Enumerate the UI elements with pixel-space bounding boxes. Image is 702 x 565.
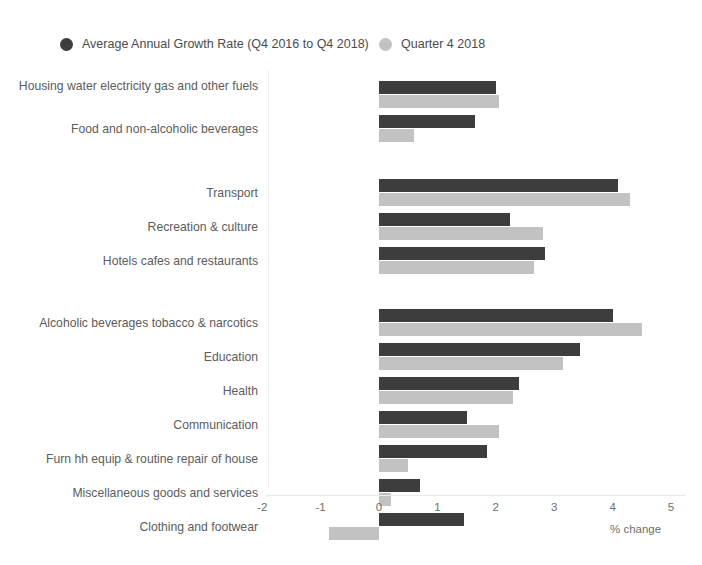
bar-dark[interactable]: [379, 411, 467, 424]
bar-pair: [0, 78, 702, 112]
bar-dark[interactable]: [379, 343, 580, 356]
bar-pair: [0, 176, 702, 210]
bar-chart: Average Annual Growth Rate (Q4 2016 to Q…: [0, 0, 702, 565]
legend-item-average-annual-growth-rate[interactable]: Average Annual Growth Rate (Q4 2016 to Q…: [60, 32, 369, 56]
legend-item-quarter-4-2018[interactable]: Quarter 4 2018: [379, 32, 485, 56]
bar-light[interactable]: [379, 323, 642, 336]
bar-pair: [0, 306, 702, 340]
bar-row: Hotels cafes and restaurants: [0, 244, 702, 278]
bar-dark[interactable]: [379, 309, 613, 322]
x-axis-tick: 0: [376, 501, 382, 513]
bar-light[interactable]: [379, 227, 543, 240]
bar-row: Housing water electricity gas and other …: [0, 78, 702, 112]
legend-label: Average Annual Growth Rate (Q4 2016 to Q…: [82, 38, 369, 51]
legend-label: Quarter 4 2018: [401, 38, 485, 51]
x-axis-line: [266, 495, 686, 496]
bar-light[interactable]: [379, 357, 563, 370]
bar-dark[interactable]: [379, 479, 420, 492]
bar-light[interactable]: [379, 129, 414, 142]
bar-row: Furn hh equip & routine repair of house: [0, 442, 702, 476]
x-axis-tick: 3: [551, 501, 557, 513]
bar-dark[interactable]: [379, 115, 475, 128]
x-axis: -2-1012345 % change: [0, 495, 702, 555]
bar-pair: [0, 112, 702, 146]
bar-row: Recreation & culture: [0, 210, 702, 244]
bar-pair: [0, 340, 702, 374]
bar-pair: [0, 374, 702, 408]
x-axis-title: % change: [610, 523, 661, 535]
bar-dark[interactable]: [379, 445, 487, 458]
bar-row: Health: [0, 374, 702, 408]
plot-area: Housing water electricity gas and other …: [0, 70, 702, 495]
legend-dot-light-icon: [379, 38, 392, 51]
bar-row: Alcoholic beverages tobacco & narcotics: [0, 306, 702, 340]
x-axis-tick: -2: [257, 501, 267, 513]
bar-row: Transport: [0, 176, 702, 210]
chart-legend: Average Annual Growth Rate (Q4 2016 to Q…: [0, 32, 702, 56]
bar-dark[interactable]: [379, 213, 510, 226]
x-axis-tick: 1: [434, 501, 440, 513]
bar-dark[interactable]: [379, 179, 618, 192]
bar-pair: [0, 210, 702, 244]
bar-light[interactable]: [379, 391, 513, 404]
bar-row: Food and non-alcoholic beverages: [0, 112, 702, 146]
bar-light[interactable]: [379, 193, 630, 206]
bar-pair: [0, 244, 702, 278]
bar-light[interactable]: [379, 95, 499, 108]
bar-row: Education: [0, 340, 702, 374]
bar-row: Communication: [0, 408, 702, 442]
bar-light[interactable]: [379, 261, 534, 274]
bar-pair: [0, 442, 702, 476]
x-axis-tick: 2: [493, 501, 499, 513]
x-axis-tick: -1: [315, 501, 325, 513]
bar-light[interactable]: [379, 425, 499, 438]
legend-dot-dark-icon: [60, 38, 73, 51]
bar-dark[interactable]: [379, 81, 496, 94]
x-axis-tick: 4: [609, 501, 615, 513]
x-axis-tick: 5: [668, 501, 674, 513]
bar-dark[interactable]: [379, 377, 519, 390]
bar-pair: [0, 408, 702, 442]
bar-dark[interactable]: [379, 247, 545, 260]
bar-light[interactable]: [379, 459, 408, 472]
